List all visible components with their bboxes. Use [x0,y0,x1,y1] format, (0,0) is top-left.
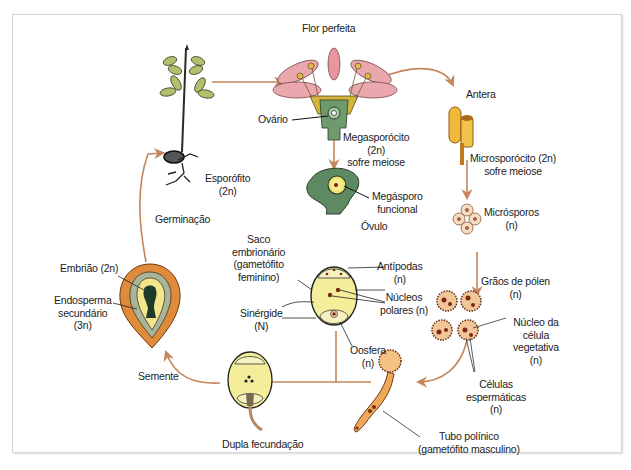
label-megasporo-funcional: Megásporo funcional [372,190,423,215]
label-antipodas: Antípodas (n) [377,260,423,285]
label-microsporos: Micrósporos (n) [484,206,539,231]
seed [113,264,180,348]
label-nucleos-polares: Núcleos polares (n) [380,291,428,316]
label-embriao: Embrião (2n) [60,262,118,275]
label-ovario: Ovário [258,113,288,126]
label-graos-de-polen: Grãos de pólen (n) [481,275,550,300]
label-flor-perfeita: Flor perfeita [302,22,355,35]
label-nucleo-celula-vegetativa: Núcleo da célula vegetativa (n) [513,316,559,366]
label-sinergide: Sinérgide (N) [240,307,283,332]
ovule [307,168,369,214]
double-fertilization [228,352,272,430]
label-germinacao: Germinação [155,213,210,226]
label-celulas-espermaticas: Células espermáticas (n) [466,378,526,416]
label-saco-embrionario: Saco embrionário (gametófito feminino) [232,233,285,283]
perfect-flower [273,48,397,140]
label-esporofito: Esporófito (2n) [205,172,250,197]
arrow-seed-to-germination [140,153,163,262]
arrow-pollen-to-tube [418,335,468,382]
label-megasporocito: Megasporócito (2n) sofre meiose [343,131,409,169]
label-antera: Antera [466,88,496,101]
microspores [453,204,481,234]
label-dupla-fecundacao: Dupla fecundação [222,438,303,451]
label-microsporocito: Microsporócito (2n) sofre meiose [470,152,556,177]
label-oosfera: Oosfera (n) [350,344,386,369]
embryo-sac [282,267,385,346]
label-semente: Semente [138,370,179,383]
label-tubo-polinico: Tubo polínico (gametófito masculino) [418,430,520,455]
sporophyte-plant [159,44,214,185]
life-cycle-illustration [0,0,631,470]
label-endosperma: Endosperma secundário (3n) [54,294,112,332]
label-ovulo: Óvulo [361,220,387,233]
arrow-flower-to-anther [380,69,453,85]
cycle-arrows [140,69,477,383]
